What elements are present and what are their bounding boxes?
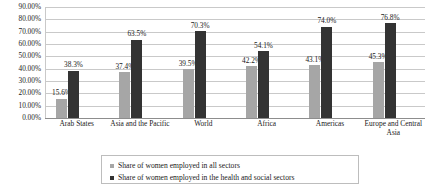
y-axis-tick-label: 0.00% [0, 114, 41, 121]
x-axis-category-label: Africa [232, 120, 302, 129]
y-axis-tick-label: 20.00% [0, 90, 41, 97]
bar-group: 37.4%63.5% [108, 7, 171, 118]
bar [183, 69, 194, 118]
bar-value-label: 63.5% [117, 30, 157, 37]
bar [246, 66, 257, 118]
bar-group: 39.5%70.3% [172, 7, 235, 118]
bar [385, 23, 396, 118]
y-axis-tick-label: 60.00% [0, 40, 41, 47]
bar-value-label: 76.8% [370, 14, 410, 21]
bar [321, 27, 332, 118]
x-axis-category-label: Asia and the Pacific [105, 120, 175, 129]
legend-item-all-sectors: Share of women employed in all sectors [110, 160, 358, 171]
y-axis-tick-label: 40.00% [0, 65, 41, 72]
legend-item-health-social-sectors: Share of women employed in the health an… [110, 172, 358, 183]
bar-value-label: 74.0% [307, 17, 347, 24]
y-axis-tick-label: 30.00% [0, 77, 41, 84]
bar-value-label: 70.3% [180, 22, 220, 29]
y-axis-tick-label: 10.00% [0, 102, 41, 109]
x-axis-category-labels: Arab StatesAsia and the PacificWorldAfri… [45, 120, 425, 146]
x-axis-category-label: World [168, 120, 238, 129]
y-axis-tick-labels: 0.00%10.00%20.00%30.00%40.00%50.00%60.00… [0, 7, 41, 118]
bar-group: 43.1%74.0% [298, 7, 361, 118]
bar-group: 15.6%38.3% [45, 7, 108, 118]
x-axis-category-label: Arab States [42, 120, 112, 129]
legend-swatch-light-icon [110, 164, 114, 168]
y-axis-tick-label: 50.00% [0, 53, 41, 60]
grouped-bar-chart: 0.00%10.00%20.00%30.00%40.00%50.00%60.00… [0, 0, 434, 195]
chart-legend: Share of women employed in all sectors S… [101, 155, 359, 184]
bar [56, 99, 67, 118]
bar [195, 31, 206, 118]
bar [258, 51, 269, 118]
legend-label: Share of women employed in the health an… [118, 173, 295, 182]
bar-value-label: 38.3% [54, 61, 94, 68]
bar-group: 45.3%76.8% [362, 7, 425, 118]
legend-swatch-dark-icon [110, 176, 114, 180]
x-axis-category-label: Europe and Central Asia [358, 120, 428, 137]
bar-value-label: 54.1% [244, 42, 284, 49]
plot-area: 15.6%38.3%37.4%63.5%39.5%70.3%42.2%54.1%… [45, 7, 425, 118]
x-axis-category-label: Americas [295, 120, 365, 129]
bar [68, 71, 79, 118]
y-axis-tick-label: 90.00% [0, 3, 41, 10]
bar [373, 62, 384, 118]
bar-group: 42.2%54.1% [235, 7, 298, 118]
bar [119, 72, 130, 118]
legend-label: Share of women employed in all sectors [118, 161, 240, 170]
bar [309, 65, 320, 118]
y-axis-tick-label: 80.00% [0, 16, 41, 23]
bar [131, 40, 142, 118]
y-axis-tick-label: 70.00% [0, 28, 41, 35]
